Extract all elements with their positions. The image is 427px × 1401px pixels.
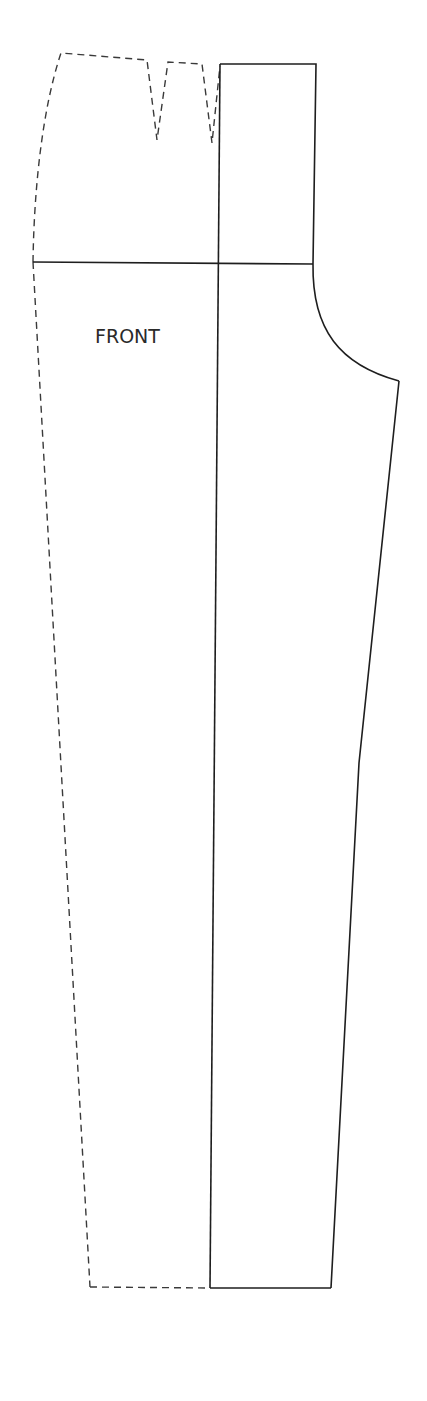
pattern-diagram (0, 0, 427, 1401)
hem-dashed (90, 1287, 210, 1288)
center-grain-line (210, 64, 220, 1288)
crotch-curve (313, 264, 399, 381)
waistband-rect (220, 64, 316, 264)
solid-outline (33, 64, 399, 1288)
side-seam (33, 262, 90, 1287)
hip-line (33, 262, 313, 264)
waist-curve-with-darts (33, 53, 220, 262)
piece-label-front: FRONT (95, 327, 160, 346)
dashed-outline (33, 53, 220, 1288)
inseam (331, 381, 399, 1288)
